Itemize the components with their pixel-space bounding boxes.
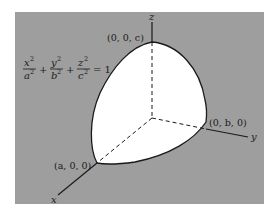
- equation-exp: 2: [57, 55, 61, 63]
- equation-exp: 2: [84, 55, 88, 63]
- z-axis-label: z: [148, 11, 155, 22]
- equation-numerator-y: y: [50, 57, 57, 68]
- equation-exp: 2: [84, 68, 88, 76]
- equation-plus: +: [39, 64, 47, 75]
- y-axis-label: y: [250, 131, 257, 142]
- x-axis-label: x: [51, 194, 57, 205]
- y-intercept-label: (0, b, 0): [209, 117, 247, 128]
- z-intercept-label: (0, 0, c): [107, 32, 144, 43]
- equation-numerator-z: z: [77, 57, 84, 68]
- ellipsoid-diagram: z y x (0, 0, c) (0, b, 0) (a, 0, 0) x 2 …: [0, 0, 275, 218]
- x-intercept-label: (a, 0, 0): [54, 160, 91, 171]
- equation-equals: = 1: [93, 64, 111, 75]
- equation-exp: 2: [57, 68, 61, 76]
- equation-plus: +: [66, 64, 74, 75]
- equation-exp: 2: [30, 55, 34, 63]
- equation-exp: 2: [30, 68, 34, 76]
